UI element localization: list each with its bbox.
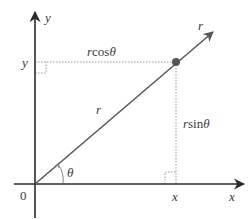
angle-theta-label: θ (67, 165, 74, 180)
origin-label: 0 (20, 188, 27, 203)
point-x-label: x (171, 189, 178, 204)
radius-ray (35, 32, 213, 184)
polar-point (172, 58, 180, 66)
y-axis-label: y (43, 10, 51, 25)
ray-tip-label: r (198, 18, 204, 33)
rsin-theta: θ (203, 116, 210, 131)
right-angle-marker-x (165, 172, 176, 184)
point-y-label: y (20, 55, 28, 70)
right-angle-marker-y (35, 62, 46, 73)
polar-coordinates-diagram: y x y x 0 r r rcosθ rsinθ θ (0, 0, 250, 219)
x-axis-label: x (228, 189, 235, 204)
rcos-fn: cos (92, 44, 109, 59)
rcos-theta-label: rcosθ (87, 44, 116, 59)
rsin-fn: sin (188, 116, 204, 131)
rcos-theta: θ (109, 44, 116, 59)
rsin-theta-label: rsinθ (183, 116, 210, 131)
ray-mid-label: r (96, 102, 102, 117)
